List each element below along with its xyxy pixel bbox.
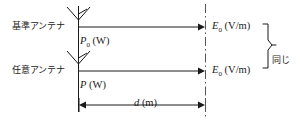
field-strength-label-top: E0 (V/m) xyxy=(212,21,250,34)
antenna-comparison-figure: 基準アンテナ 任意アンテナ P0 (W) P (W) E0 (V/m) E0 (… xyxy=(0,0,300,123)
reference-antenna-label: 基準アンテナ xyxy=(12,22,65,31)
power-symbol-arbitrary: P xyxy=(80,79,86,90)
power-label-reference: P0 (W) xyxy=(80,36,109,49)
field-strength-label-bottom: E0 (V/m) xyxy=(212,65,250,78)
distance-symbol: d xyxy=(134,97,139,108)
power-label-arbitrary: P (W) xyxy=(80,80,106,91)
arbitrary-antenna-label: 任意アンテナ xyxy=(12,66,65,75)
power-unit-arbitrary: (W) xyxy=(89,79,106,90)
field-unit-bottom: (V/m) xyxy=(225,64,251,75)
power-unit-reference: (W) xyxy=(93,35,110,46)
propagation-arrow-top xyxy=(79,24,205,31)
propagation-arrow-bottom xyxy=(79,68,205,75)
distance-label: d (m) xyxy=(134,98,157,109)
field-subscript-top: 0 xyxy=(218,26,222,34)
same-value-annotation: 同じ xyxy=(272,56,290,65)
power-subscript-reference: 0 xyxy=(86,41,90,49)
distance-unit: (m) xyxy=(142,97,157,108)
field-unit-top: (V/m) xyxy=(225,20,251,31)
field-subscript-bottom: 0 xyxy=(218,70,222,78)
